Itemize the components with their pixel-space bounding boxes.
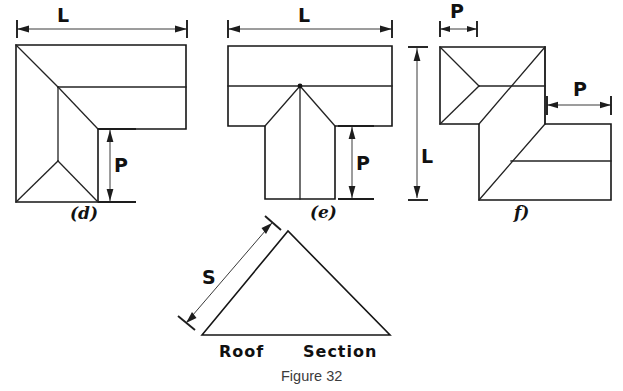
dimension-arrow-left-L-e	[228, 26, 240, 33]
dimension-arrow-right-P-right-f	[600, 102, 611, 108]
label-L-panel-e: L	[298, 4, 310, 26]
panel-e-valley-left	[265, 86, 300, 126]
dimension-arrow-top-P-e	[349, 127, 356, 139]
dimension-arrow-left-L-d	[17, 26, 29, 33]
dimension-arrow-right-L-e	[380, 26, 392, 33]
panel-d-hip-bottomright	[58, 161, 98, 202]
panel-d-dimension-L	[17, 20, 187, 38]
roof-section-title-word2: Section	[303, 342, 377, 361]
panel-e-group: L P (e)	[228, 4, 392, 222]
label-S-roof-section: S	[202, 266, 216, 288]
panel-f-group: P L	[408, 0, 611, 222]
panel-e-valley-right	[300, 86, 335, 126]
dimension-arrow-bottom-P-e	[349, 186, 356, 198]
dimension-arrow-right-P-top-f	[467, 26, 477, 32]
panel-e-peak-node	[298, 84, 303, 89]
figure-32-drawing: L P (d)	[0, 0, 623, 391]
panel-d-outline	[16, 45, 186, 202]
label-P-panel-e: P	[356, 152, 370, 174]
panel-label-e: (e)	[310, 202, 337, 222]
dimension-arrow-bottom-P-d	[107, 189, 114, 201]
panel-f-dimension-L	[408, 47, 428, 200]
roof-section-title-word1: Roof	[219, 342, 264, 361]
panel-roof-section-group: S Roof Section	[178, 216, 390, 361]
drawing-canvas: L P (d)	[0, 0, 623, 391]
panel-f-dimension-P-top	[440, 21, 477, 37]
panel-f-hip-upper-bottomleft	[440, 86, 479, 124]
dimension-arrow-bottom-L-f	[414, 186, 421, 198]
dimension-arrow-top-S	[262, 223, 273, 234]
label-L-panel-f: L	[421, 145, 433, 167]
panel-e-outline	[228, 46, 392, 199]
panel-label-f: f)	[513, 202, 529, 222]
panel-f-hip-upper-topleft	[440, 47, 479, 86]
dimension-arrow-left-P-right-f	[547, 102, 558, 108]
panel-d-hip-bottomleft	[16, 161, 58, 202]
dimension-arrow-right-L-d	[175, 26, 187, 33]
label-L-panel-d: L	[57, 4, 69, 26]
roof-section-dimension-S	[178, 216, 281, 330]
panel-d-hip-topleft	[16, 45, 58, 87]
dimension-arrow-top-P-d	[107, 130, 114, 142]
label-P-right-panel-f: P	[573, 78, 587, 100]
dimension-arrow-left-P-top-f	[440, 26, 450, 32]
label-P-top-panel-f: P	[450, 0, 464, 22]
panel-f-valley-lower-diagonal	[479, 124, 545, 200]
dimension-arrow-top-L-f	[414, 49, 421, 61]
panel-label-d: (d)	[70, 203, 98, 223]
panel-d-valley-diagonal	[58, 87, 98, 129]
panel-d-group: L P (d)	[16, 4, 187, 223]
dimension-arrow-bottom-S	[186, 312, 197, 323]
label-P-panel-d: P	[114, 154, 128, 176]
roof-section-triangle	[202, 231, 390, 335]
dimension-line-S	[186, 223, 272, 323]
figure-caption: Figure 32	[281, 368, 342, 384]
